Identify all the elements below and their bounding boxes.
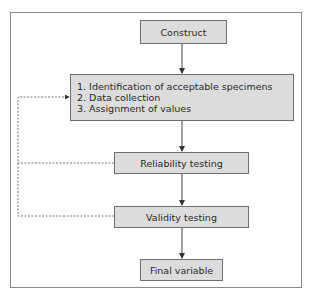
construct-label: Construct xyxy=(160,27,206,38)
reliability-label: Reliability testing xyxy=(140,158,222,169)
process-box: 1. Identification of acceptable specimen… xyxy=(70,74,294,121)
process-step-3: 3. Assignment of values xyxy=(77,103,293,114)
construct-box: Construct xyxy=(140,20,227,44)
validity-box: Validity testing xyxy=(114,206,249,228)
connector-lines xyxy=(0,0,311,296)
final-variable-label: Final variable xyxy=(150,265,213,276)
validity-label: Validity testing xyxy=(146,212,217,223)
process-step-2: 2. Data collection xyxy=(77,92,293,103)
reliability-box: Reliability testing xyxy=(114,152,249,174)
final-variable-box: Final variable xyxy=(140,259,223,281)
process-step-1: 1. Identification of acceptable specimen… xyxy=(77,81,293,92)
